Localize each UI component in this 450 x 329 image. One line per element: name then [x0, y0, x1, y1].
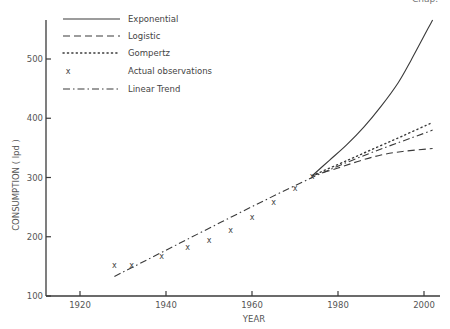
y-tick-label: 400 [27, 113, 43, 123]
forecast-chart: 10020030040050019201940196019802000YEARC… [0, 0, 450, 329]
x-tick-label: 1920 [69, 300, 91, 310]
legend-x-marker-icon: x [66, 67, 71, 76]
x-tick-label: 1940 [155, 300, 177, 310]
axes: 10020030040050019201940196019802000YEARC… [11, 20, 440, 324]
legend-label: Logistic [128, 31, 161, 41]
legend-item-gompertz: Gompertz [63, 48, 171, 58]
y-tick-label: 300 [27, 173, 43, 183]
y-axis-label: CONSUMPTION ( lpd ) [11, 139, 21, 231]
series-layer: xxxxxxxxxx [112, 20, 433, 277]
observation-marker: x [185, 243, 190, 252]
observation-marker: x [207, 236, 212, 245]
legend-item-exponential: Exponential [63, 14, 178, 24]
x-tick-label: 1980 [327, 300, 349, 310]
x-tick-label: 2000 [413, 300, 435, 310]
observation-marker: x [159, 252, 164, 261]
legend-label: Gompertz [128, 48, 171, 58]
legend: ExponentialLogisticGompertzxActual obser… [63, 14, 213, 94]
legend-item-actual-observations: xActual observations [66, 66, 213, 76]
x-axis-label: YEAR [242, 314, 265, 324]
x-tick-label: 1960 [241, 300, 263, 310]
series-gompertz [312, 122, 432, 175]
y-tick-label: 500 [27, 54, 43, 64]
legend-label: Actual observations [128, 66, 213, 76]
legend-item-logistic: Logistic [63, 31, 161, 41]
legend-label: Exponential [128, 14, 178, 24]
legend-item-linear-trend: Linear Trend [63, 84, 180, 94]
legend-label: Linear Trend [128, 84, 180, 94]
observation-marker: x [228, 226, 233, 235]
y-tick-label: 100 [27, 291, 43, 301]
observation-marker: x [112, 261, 117, 270]
observation-marker: x [250, 213, 255, 222]
observation-marker: x [271, 198, 276, 207]
y-tick-label: 200 [27, 232, 43, 242]
